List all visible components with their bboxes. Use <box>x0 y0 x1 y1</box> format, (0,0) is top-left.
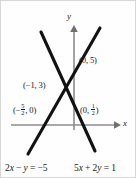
eq2-right-side: = 1 <box>101 163 115 173</box>
graph-lines-group <box>28 28 100 154</box>
x-axis-label: x <box>123 119 127 128</box>
equation-label-line-2: 5x + 2y = 1 <box>74 164 116 174</box>
y-intercept-prefix: (0, <box>80 105 91 115</box>
y-axis-label: y <box>67 12 71 21</box>
equation-label-line-1: 2x − y = −5 <box>5 164 47 174</box>
x-axis-arrowhead <box>114 121 121 129</box>
graph-figure: (0, 5) (−1, 3) (−52, 0) (0, 12) x y 2x −… <box>0 0 136 178</box>
eq1-operator: − <box>14 163 24 173</box>
point-label-y-intercept-half: (0, 12) <box>80 103 99 117</box>
fraction-denominator: 2 <box>91 109 95 116</box>
y-axis-arrowhead <box>70 25 78 32</box>
point-label-x-intercept: (−52, 0) <box>13 103 36 117</box>
point-label-intersection: (−1, 3) <box>23 81 46 90</box>
y-intercept-suffix: ) <box>96 105 99 115</box>
coordinate-plane-svg <box>1 1 136 178</box>
eq2-operator: + <box>83 163 93 173</box>
y-intercept-fraction: 12 <box>91 103 95 117</box>
x-intercept-suffix: , 0) <box>25 105 36 115</box>
point-label-0-5: (0, 5) <box>79 56 97 65</box>
x-intercept-prefix: (− <box>13 105 20 115</box>
eq1-right-side: = −5 <box>28 163 48 173</box>
